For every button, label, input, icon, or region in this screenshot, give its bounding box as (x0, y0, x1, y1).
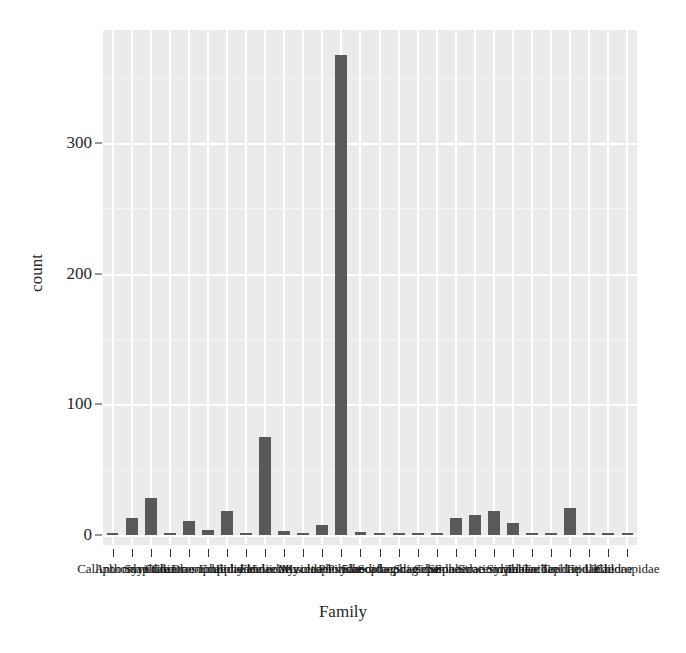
bar (602, 533, 614, 536)
bar (374, 533, 386, 536)
bar (240, 533, 252, 536)
bar (278, 531, 290, 535)
x-axis-tick-labels: CalliphoridaeAnthomyiidaeSyrphidaeCulici… (0, 556, 686, 596)
bar (355, 532, 367, 535)
y-axis-tick-label: 300 (67, 133, 93, 153)
bars-layer (103, 30, 637, 545)
bar (564, 508, 576, 535)
x-axis-title: Family (0, 602, 686, 622)
plot-panel (103, 30, 637, 545)
y-axis-tick-label: 200 (67, 264, 93, 284)
bar (297, 533, 309, 536)
y-axis-title-text: count (27, 254, 47, 292)
y-axis-tick-mark (95, 535, 102, 536)
bar (145, 498, 157, 535)
bar (622, 533, 634, 536)
bar (107, 533, 119, 536)
bar (126, 518, 138, 535)
bar (545, 533, 557, 536)
y-axis-title: count (26, 0, 48, 545)
y-axis-tick-label: 0 (84, 525, 93, 545)
bar (221, 511, 233, 535)
bar (507, 523, 519, 535)
y-axis-tick-mark (95, 404, 102, 405)
bar (316, 525, 328, 535)
y-axis-tick-mark (95, 142, 102, 143)
bar (412, 533, 424, 536)
bar (164, 533, 176, 536)
bar (259, 437, 271, 535)
bar (431, 533, 443, 536)
bar-chart: count 0100200300 CalliphoridaeAnthomyiid… (0, 0, 686, 653)
bar (526, 533, 538, 536)
bar (183, 521, 195, 535)
bar (450, 518, 462, 535)
y-axis-tick-mark (95, 273, 102, 274)
bar (583, 533, 595, 536)
x-axis-title-text: Family (319, 602, 367, 621)
bar (393, 533, 405, 536)
bar (488, 511, 500, 535)
bar (469, 515, 481, 535)
x-axis-tick-label: Chloropidae (595, 562, 659, 576)
bar (335, 55, 347, 535)
bar (202, 530, 214, 535)
y-axis-tick-label: 100 (67, 394, 93, 414)
y-axis-tick-labels: 0100200300 (48, 0, 92, 545)
